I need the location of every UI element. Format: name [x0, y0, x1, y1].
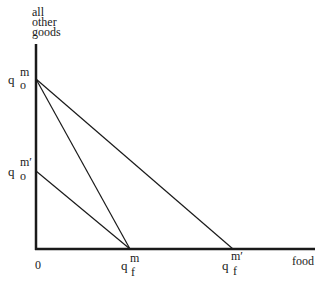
x-intercept-sup: m	[130, 252, 139, 264]
y-intercept-label-qom-prime: q m′ o	[8, 160, 38, 186]
y-axis-label: all other goods	[32, 7, 61, 37]
diagram-canvas	[0, 0, 325, 283]
x-intercept-sub: f	[233, 265, 237, 277]
origin-label: 0	[35, 259, 41, 271]
y-intercept-sub: o	[20, 170, 26, 182]
x-axis-label: food	[292, 255, 314, 267]
budget-line-qom-prime-to-qfm	[36, 171, 130, 249]
x-intercept-sub: f	[131, 266, 135, 278]
y-axis-label-line-3: goods	[32, 27, 61, 37]
budget-line-qom-to-qfm-prime	[36, 79, 233, 249]
y-intercept-base: q	[8, 74, 15, 86]
y-intercept-base: q	[8, 166, 15, 178]
x-intercept-base: q	[222, 260, 229, 272]
y-intercept-sub: o	[20, 79, 26, 91]
x-intercept-label-qfm: q m f	[121, 252, 151, 282]
y-intercept-sup: m	[20, 66, 29, 78]
y-intercept-label-qom: q m o	[8, 68, 38, 94]
x-intercept-label-qfm-prime: q m′ f	[222, 252, 252, 282]
x-intercept-sup: m′	[231, 250, 243, 262]
budget-line-qom-to-qfm	[36, 79, 130, 249]
y-intercept-sup: m′	[20, 156, 32, 168]
x-intercept-base: q	[121, 260, 128, 272]
